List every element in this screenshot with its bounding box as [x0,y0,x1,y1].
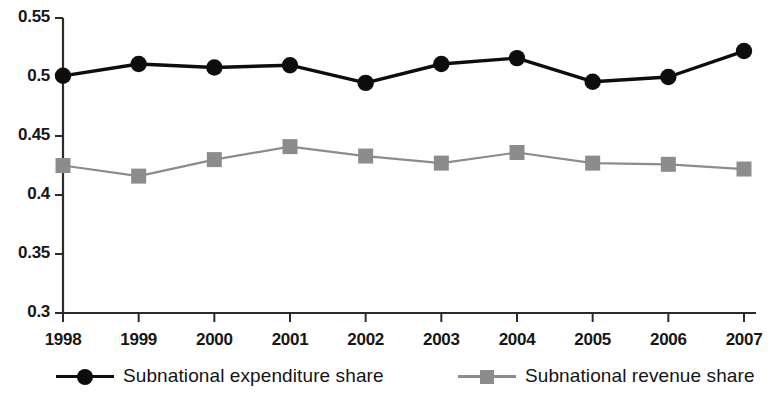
series-line-0 [63,51,744,83]
legend-item-subnational-revenue-share: Subnational revenue share [458,358,755,393]
data-point-marker [584,74,600,90]
y-axis-tick-label: 0.5 [27,66,50,86]
x-axis-tick-label: 2005 [553,330,633,350]
chart-legend: Subnational expenditure share Subnationa… [0,358,772,393]
data-point-marker [130,56,146,72]
y-axis-tick-label: 0.55 [18,7,50,27]
x-axis-tick-label: 2006 [628,330,708,350]
line-chart-figure: 0.30.350.40.450.50.55 199819992000200120… [0,0,772,393]
data-point-marker [56,158,71,173]
data-point-marker [509,50,525,66]
circle-marker-icon [56,366,114,386]
legend-label-expenditure: Subnational expenditure share [123,365,384,387]
data-point-marker [660,69,676,85]
data-point-marker [131,169,146,184]
data-point-marker [206,59,222,75]
series-line-1 [63,147,744,177]
data-point-marker [433,56,449,72]
x-axis-tick-label: 2007 [704,330,772,350]
y-axis-tick-label: 0.4 [27,184,50,204]
y-axis-tick-label: 0.45 [18,125,50,145]
x-axis-tick-label: 2003 [401,330,481,350]
data-point-marker [282,57,298,73]
x-axis-tick-label: 1998 [23,330,103,350]
x-axis-tick-label: 1999 [99,330,179,350]
data-point-marker [736,43,752,59]
data-point-marker [357,75,373,91]
x-axis-tick-label: 2002 [326,330,406,350]
chart-series [55,43,752,184]
data-point-marker [510,145,525,160]
data-point-marker [55,68,71,84]
data-point-marker [434,156,449,171]
data-point-marker [207,152,222,167]
y-axis-tick-label: 0.3 [27,302,50,322]
x-axis-tick-label: 2004 [477,330,557,350]
x-axis-tick-label: 2000 [174,330,254,350]
data-point-marker [585,156,600,171]
square-marker-icon [458,366,516,386]
y-axis-tick-label: 0.35 [18,243,50,263]
data-point-marker [358,149,373,164]
legend-label-revenue: Subnational revenue share [525,365,755,387]
data-point-marker [283,139,298,154]
data-point-marker [737,162,752,177]
x-axis-tick-label: 2001 [250,330,330,350]
data-point-marker [661,157,676,172]
legend-item-subnational-expenditure-share: Subnational expenditure share [56,358,384,393]
